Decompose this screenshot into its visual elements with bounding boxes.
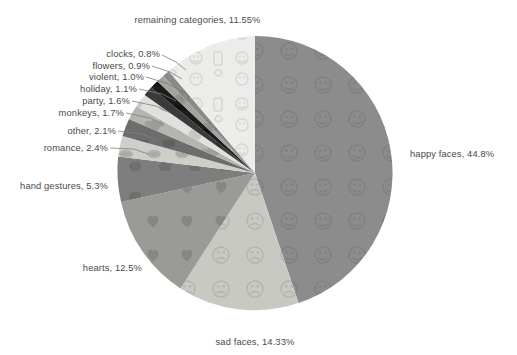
pie-label-violent: violent, 1.0% — [18, 71, 144, 82]
pie-label-holiday: holiday, 1.1% — [11, 83, 137, 94]
pie-label-hand-gestures: hand gestures, 5.3% — [0, 180, 108, 191]
pie-label-other: other, 2.1% — [0, 125, 116, 136]
pie-label-party: party, 1.6% — [4, 95, 130, 106]
pie-label-flowers: flowers, 0.9% — [24, 60, 150, 71]
pie-label-remaining-categories: remaining categories, 11.55% — [125, 14, 270, 25]
pie-label-clocks: clocks, 0.8% — [34, 48, 160, 59]
pie-label-sad-faces: sad faces, 14.33% — [190, 336, 320, 347]
pie-chart: remaining categories, 11.55% clocks, 0.8… — [0, 0, 517, 355]
pie-label-monkeys: monkeys, 1.7% — [0, 107, 124, 118]
pie-slices — [117, 36, 392, 310]
pie-label-happy-faces: happy faces, 44.8% — [410, 148, 514, 159]
pie-label-romance: romance, 2.4% — [0, 142, 108, 153]
pie-label-hearts: hearts, 12.5% — [16, 262, 142, 273]
